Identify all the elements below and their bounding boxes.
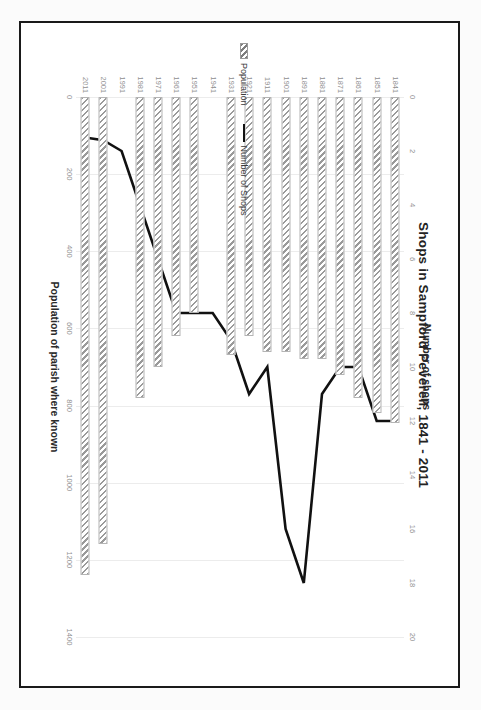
- axis-tick-label: 16: [408, 524, 417, 532]
- bar: [153, 97, 162, 367]
- axis-tick-label: 14: [408, 470, 417, 478]
- category-label: 2011: [80, 77, 89, 93]
- axis-tick-label: 6: [408, 256, 417, 260]
- screenshot-page: Shops in Sampford Peverell, 1841 - 2011 …: [0, 0, 481, 710]
- axis-tick-label: 2: [408, 148, 417, 152]
- category-label: 1981: [135, 76, 144, 92]
- axis-tick-label: 200: [65, 167, 74, 180]
- legend-label-population: Population: [239, 63, 249, 106]
- bar: [98, 97, 107, 544]
- axis-tick-label: 1000: [65, 474, 74, 491]
- bar: [171, 97, 180, 336]
- bar: [135, 97, 144, 398]
- axis-tick-label: 10: [408, 362, 417, 370]
- bar: [335, 97, 344, 375]
- legend-item-shops: Number of Shops: [239, 123, 249, 215]
- bar: [262, 97, 271, 352]
- axis-tick-label: 400: [65, 244, 74, 257]
- axis-tick-label: 0: [65, 94, 74, 98]
- hatch-swatch-icon: [240, 43, 248, 59]
- axis-tick-label: 12: [408, 416, 417, 424]
- axis-tick-label: 8: [408, 310, 417, 314]
- legend-label-shops: Number of Shops: [239, 145, 249, 215]
- bar: [390, 97, 399, 423]
- axis-tick-label: 600: [65, 322, 74, 335]
- document-frame: Shops in Sampford Peverell, 1841 - 2011 …: [19, 21, 460, 688]
- bar: [80, 97, 89, 575]
- category-label: 1851: [372, 76, 381, 92]
- chart-canvas: Shops in Sampford Peverell, 1841 - 2011 …: [45, 41, 435, 669]
- bar: [317, 97, 326, 359]
- bar: [281, 97, 290, 352]
- category-label: 1941: [208, 76, 217, 92]
- category-label: 1841: [390, 76, 399, 92]
- rotated-chart-wrapper: Shops in Sampford Peverell, 1841 - 2011 …: [45, 41, 435, 669]
- bar: [372, 97, 381, 413]
- category-label: 1971: [153, 76, 162, 92]
- primary-axis-ticks: 0200400600800100012001400: [62, 97, 74, 637]
- primary-axis-title: Population of parish where known: [49, 97, 61, 637]
- line-swatch-icon: [243, 123, 245, 141]
- category-label: 1931: [226, 76, 235, 92]
- axis-tick-label: 18: [408, 578, 417, 586]
- legend-item-population: Population: [239, 43, 249, 106]
- secondary-axis-title: Number of shops: [421, 97, 433, 637]
- axis-tick-label: 1200: [65, 551, 74, 568]
- category-label: 1901: [281, 76, 290, 92]
- bar: [226, 97, 235, 355]
- category-label: 1911: [262, 77, 271, 93]
- bar: [353, 97, 362, 398]
- category-label: 1891: [299, 76, 308, 92]
- bar: [299, 97, 308, 359]
- category-label: 1881: [317, 76, 326, 92]
- category-label: 1991: [117, 76, 126, 92]
- secondary-axis-ticks: 02468101214161820: [405, 97, 417, 637]
- category-label: 1961: [171, 76, 180, 92]
- axis-tick-label: 20: [408, 632, 417, 640]
- bar: [189, 97, 198, 313]
- axis-tick-label: 800: [65, 399, 74, 412]
- axis-tick-label: 4: [408, 202, 417, 206]
- chart-legend: Population Number of Shops: [238, 43, 249, 213]
- axis-tick-label: 1400: [65, 628, 74, 645]
- axis-tick-label: 0: [408, 94, 417, 98]
- category-label: 1871: [335, 76, 344, 92]
- category-label: 1861: [353, 76, 362, 92]
- category-label: 1951: [189, 76, 198, 92]
- category-label: 2001: [98, 76, 107, 92]
